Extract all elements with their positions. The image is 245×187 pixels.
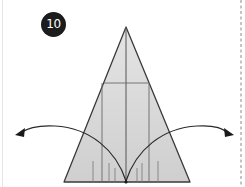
arrowhead-right-icon [224,128,234,137]
arrowhead-left-icon [15,128,25,137]
diagram-page: 10 [0,0,245,187]
fold-pivot-dot [124,180,127,183]
origami-diagram [0,0,245,187]
paper-triangle [64,27,190,182]
